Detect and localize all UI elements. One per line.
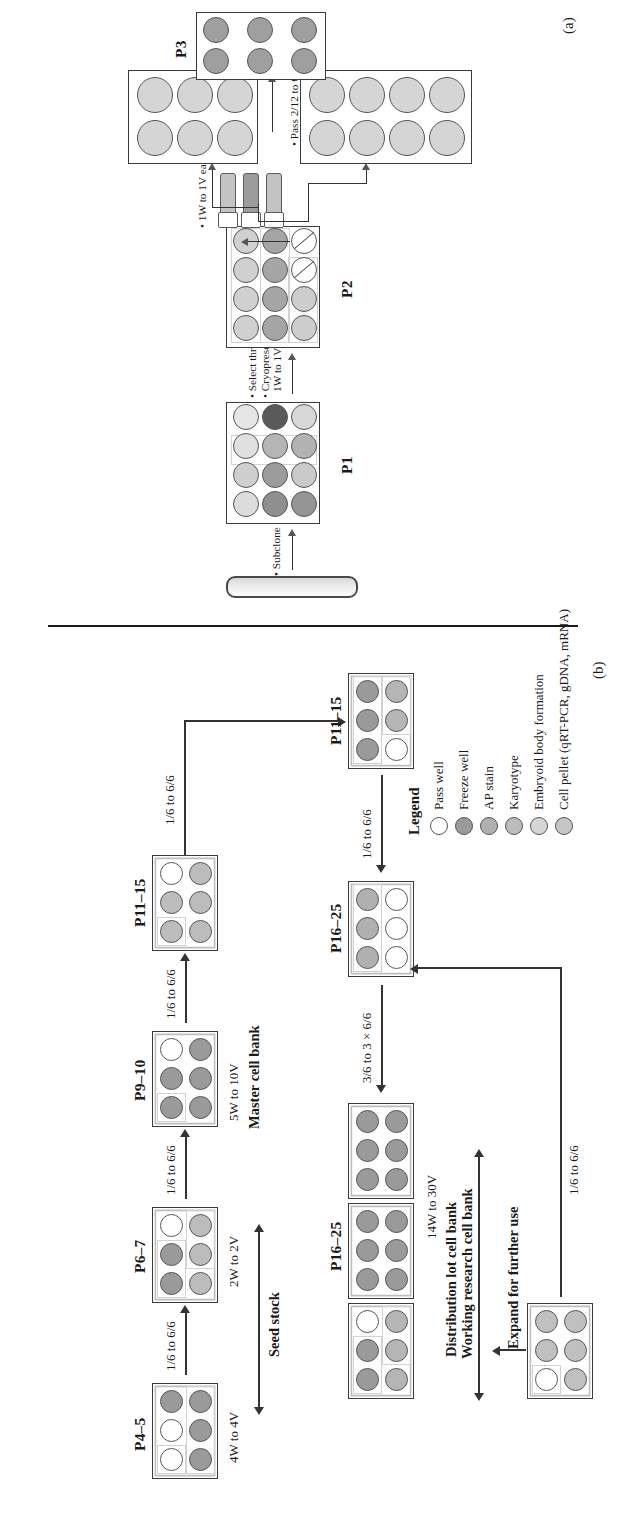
plate-6well-upper (128, 70, 258, 164)
plate-label-p11-15-top: P11–15 (131, 878, 149, 927)
plate-p16-25-bank-2 (348, 1203, 414, 1299)
working-vials-label: 14W to 30V (424, 1175, 440, 1239)
legend-swatch-embryoid-body (530, 817, 548, 835)
arrow-recycle-h (560, 967, 562, 1297)
arrowhead (474, 1149, 484, 1157)
plate-p1 (226, 402, 320, 524)
transition-label-2: 1/6 to 6/6 (163, 1145, 179, 1195)
expand-label: Expand for further use (505, 1207, 522, 1349)
arrowhead (254, 1224, 264, 1232)
arrowhead (410, 964, 418, 974)
arrow-p4-5-to-p6-7 (185, 1311, 187, 1375)
seed-stock-bracket (258, 1230, 260, 1407)
arrow-to-vials (248, 241, 290, 242)
legend-label: Embryoid body formation (531, 674, 547, 810)
legend-swatch-karyotype (505, 817, 523, 835)
arrowhead (492, 1346, 500, 1356)
plate-label-p3: P3 (172, 40, 190, 58)
legend-label: Pass well (431, 761, 447, 810)
transition-label-3: 1/6 to 6/6 (163, 969, 179, 1019)
panel-a-letter: (a) (560, 17, 577, 34)
plate-expand (527, 1303, 593, 1399)
transition-label-5: 1/6 to 6/6 (359, 809, 375, 859)
arrow-branch-b-v (258, 221, 308, 222)
legend-swatch-ap-stain (480, 817, 498, 835)
panel-b: P4–5 1/6 to 6/6 P6–7 1/6 to 6/6 (0, 625, 627, 1525)
legend-swatch-freeze-well (455, 817, 473, 835)
arrow-p16-25-to-bank (381, 985, 383, 1085)
plate-p16-25-mid (348, 881, 414, 977)
arrowhead (288, 353, 296, 360)
plate-p4-5 (152, 1383, 218, 1479)
arrow-p1-to-p2 (292, 358, 293, 394)
plate-label-p1: P1 (338, 456, 356, 474)
arrow-branch-a (258, 204, 259, 222)
arrow-dish-to-p1 (292, 534, 293, 570)
arrow-elbow-h-top (184, 721, 186, 855)
arrow-to-6well-lower-h (366, 168, 367, 184)
plate-p11-15-bottom (348, 673, 414, 769)
legend-label: Cell pellet (qRT-PCR, gDNA, mRNA) (556, 609, 572, 810)
arrowhead (474, 1393, 484, 1401)
working-research-label: Working research cell bank (459, 1188, 476, 1359)
arrowhead (288, 529, 296, 536)
transition-label-4: 1/6 to 6/6 (162, 775, 178, 825)
master-cell-bank-label: Master cell bank (246, 1025, 263, 1129)
panel-a: • Subclone single colonies P1 • Select t… (0, 0, 627, 620)
arrowhead (180, 1129, 190, 1137)
arrow-expand-up (500, 1349, 526, 1351)
arrow-elbow-v (184, 720, 312, 722)
arrow-p11-15-to-p16-25 (381, 775, 383, 865)
arrowhead (362, 163, 370, 170)
arrow-to-6well-upper-v (212, 207, 258, 208)
seed-stock-vials-right: 2W to 2V (226, 1236, 242, 1287)
plate-label-p16-25-mid: P16–25 (327, 904, 345, 953)
arrow-recycle-v (418, 967, 561, 969)
plate-p3 (196, 12, 326, 80)
arrow-to-6well-upper (212, 168, 213, 208)
arrowhead (180, 953, 190, 961)
seed-stock-vials-left: 4W to 4V (226, 1412, 242, 1463)
plate-6well-lower (300, 70, 472, 164)
arrow-p6-7-to-p9-10 (185, 1135, 187, 1199)
arrow-branch-b-h (308, 184, 309, 222)
plate-p11-15-top (152, 855, 218, 951)
plate-label-p2: P2 (338, 280, 356, 298)
arrowhead (208, 163, 216, 170)
culture-dish (226, 576, 358, 598)
arrowhead (254, 1407, 264, 1415)
panel-b-letter: (b) (590, 662, 607, 680)
arrow-to-6well-lower-v (308, 183, 366, 184)
seed-stock-label: Seed stock (266, 1292, 283, 1357)
legend-label: AP stain (481, 766, 497, 810)
legend-label: Freeze well (456, 750, 472, 810)
plate-label-p6-7: P6–7 (131, 1239, 149, 1273)
arrow-p9-10-to-p11-15 (185, 959, 187, 1023)
legend-label: Karyotype (506, 755, 522, 810)
transition-label-7: 1/6 to 6/6 (566, 1145, 582, 1195)
plate-p6-7 (152, 1207, 218, 1303)
transition-label-6: 3/6 to 3 × 6/6 (359, 1013, 375, 1083)
plate-p16-25-bank-3 (348, 1303, 414, 1399)
plate-p16-25-bank-1 (348, 1103, 414, 1199)
plate-label-p4-5: P4–5 (131, 1417, 149, 1451)
distribution-lot-label: Distribution lot cell bank (443, 1202, 460, 1357)
plate-label-p9-10: P9–10 (131, 1060, 149, 1101)
figure-canvas: P4–5 1/6 to 6/6 P6–7 1/6 to 6/6 (0, 0, 627, 1525)
working-bank-bracket (478, 1155, 480, 1393)
arrowhead (376, 865, 386, 873)
master-cell-bank-vials: 5W to 10V (226, 1063, 242, 1121)
arrow-to-p3 (272, 80, 273, 132)
legend-title: Legend (406, 787, 423, 835)
legend-swatch-cell-pellet (555, 817, 573, 835)
arrowhead (241, 238, 248, 246)
plate-p9-10 (152, 1031, 218, 1127)
step-vials: • 1W to 1V each (196, 154, 208, 228)
legend-swatch-pass-well (430, 817, 448, 835)
transition-label-1: 1/6 to 6/6 (163, 1321, 179, 1371)
plate-label-p11-15-bottom: P11–15 (327, 696, 345, 745)
plate-label-p16-25-bank: P16–25 (327, 1222, 345, 1271)
arrowhead (376, 1085, 386, 1093)
arrowhead (180, 1305, 190, 1313)
